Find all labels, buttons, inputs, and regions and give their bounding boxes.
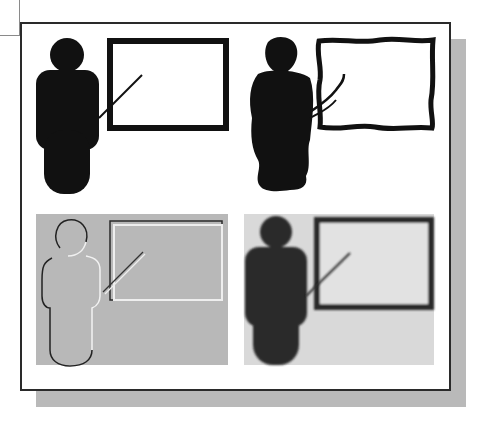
- panel-original: [36, 38, 226, 194]
- panel-emboss: [36, 214, 228, 366]
- teacher-figure-distorted-icon: [250, 37, 313, 191]
- filter-comparison-figure: [0, 0, 479, 422]
- panel-distorted: [250, 37, 433, 191]
- panel-blur: [244, 214, 434, 365]
- whiteboard-blur-icon: [317, 220, 431, 307]
- teacher-figure-icon: [36, 38, 99, 194]
- emboss-background: [36, 214, 228, 365]
- whiteboard-icon: [110, 41, 226, 128]
- whiteboard-wavy-icon: [318, 39, 433, 128]
